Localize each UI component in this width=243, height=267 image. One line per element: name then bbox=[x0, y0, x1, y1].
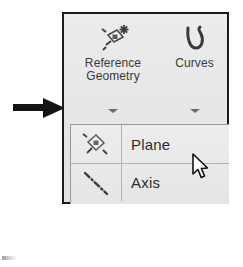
menu-item-plane-label: Plane bbox=[122, 136, 229, 153]
reference-geometry-button[interactable]: Reference Geometry bbox=[64, 14, 162, 119]
toolbar-panel: Reference Geometry Curves bbox=[62, 12, 229, 204]
curves-button[interactable]: Curves bbox=[162, 14, 227, 119]
chevron-down-icon bbox=[190, 109, 200, 113]
chevron-down-icon bbox=[108, 109, 118, 113]
axis-centerline-icon bbox=[71, 164, 122, 201]
reference-geometry-label-line2: Geometry bbox=[67, 70, 159, 83]
menu-item-plane[interactable]: Plane bbox=[71, 125, 229, 163]
menu-item-axis-label: Axis bbox=[122, 174, 229, 191]
curves-label: Curves bbox=[162, 57, 227, 70]
reference-geometry-label: Reference Geometry bbox=[64, 57, 162, 83]
callout-arrow bbox=[13, 98, 65, 118]
menu-item-axis[interactable]: Axis bbox=[71, 163, 229, 201]
plane-icon bbox=[71, 125, 122, 163]
curves-label-line1: Curves bbox=[162, 57, 227, 70]
curves-dropdown-toggle[interactable] bbox=[162, 109, 227, 113]
callout-arrow-shaft bbox=[13, 104, 46, 111]
reference-plane-sparkle-icon bbox=[64, 21, 162, 57]
command-button-row: Reference Geometry Curves bbox=[64, 14, 227, 119]
scan-artifact bbox=[2, 256, 16, 260]
spline-curve-icon bbox=[162, 21, 227, 57]
reference-geometry-dropdown-toggle[interactable] bbox=[64, 109, 162, 113]
reference-geometry-dropdown-menu: Plane Axis bbox=[70, 124, 229, 204]
